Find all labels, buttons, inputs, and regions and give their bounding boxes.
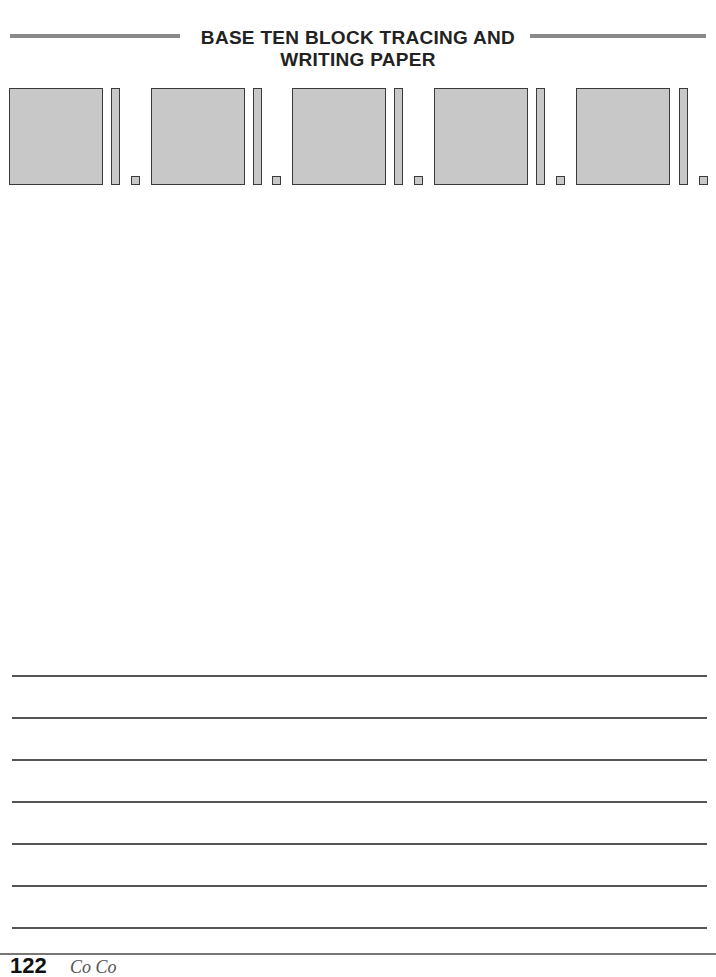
footer-rule [0,953,716,955]
unit-cube-block [556,176,565,185]
writing-line [12,927,707,929]
ten-rod-block [679,88,688,185]
footer-text: Co Co [70,957,117,977]
unit-cube-block [131,176,140,185]
base-ten-blocks-row [0,0,716,200]
writing-line [12,801,707,803]
ten-rod-block [394,88,403,185]
hundred-flat-block [9,88,103,185]
hundred-flat-block [151,88,245,185]
unit-cube-block [272,176,281,185]
writing-line [12,717,707,719]
unit-cube-block [699,176,708,185]
writing-line [12,759,707,761]
hundred-flat-block [576,88,670,185]
writing-line [12,675,707,677]
unit-cube-block [414,176,423,185]
hundred-flat-block [292,88,386,185]
ten-rod-block [536,88,545,185]
writing-line [12,843,707,845]
page-number: 122 [10,955,47,977]
ten-rod-block [111,88,120,185]
hundred-flat-block [434,88,528,185]
writing-line [12,885,707,887]
ten-rod-block [253,88,262,185]
